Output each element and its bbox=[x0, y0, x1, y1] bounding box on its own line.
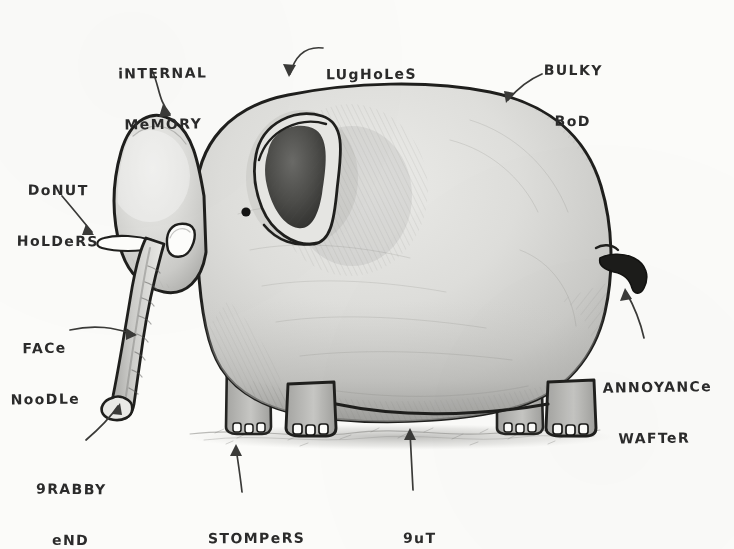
label-donut-holders: DoNUT HoLDeRS bbox=[8, 148, 109, 285]
label-annoyance-wafter-line1: ANNOYANCe bbox=[603, 378, 705, 397]
label-face-noodle: FACe NooDLe bbox=[5, 305, 85, 443]
diagram-canvas: iNTERNAL MeMORY LUgHoLeS BULKY BoD DoNUT… bbox=[0, 0, 734, 549]
label-lugholes-line1: LUgHoLeS bbox=[326, 66, 426, 84]
label-gut: 9uT bbox=[403, 496, 448, 549]
elephant-ear bbox=[246, 110, 358, 246]
label-annoyance-wafter: ANNOYANCe WAFTeR bbox=[602, 344, 706, 482]
label-grabby-end: 9RABBY eND bbox=[27, 446, 115, 549]
label-lugholes: LUgHoLeS bbox=[326, 32, 427, 118]
label-face-noodle-line1: FACe bbox=[6, 340, 84, 358]
label-internal-memory: iNTERNAL MeMORY bbox=[107, 30, 219, 168]
label-bulky-bod-line2: BoD bbox=[533, 113, 613, 131]
arrow-gut bbox=[404, 428, 416, 490]
label-stompers-line1: STOMPeRS bbox=[208, 530, 300, 548]
label-bulky-bod-line1: BULKY bbox=[533, 62, 613, 80]
arrow-annoyance-wafter bbox=[620, 288, 644, 338]
label-gut-line1: 9uT bbox=[403, 530, 447, 547]
label-face-noodle-line2: NooDLe bbox=[6, 391, 84, 409]
label-donut-holders-line2: HoLDeRS bbox=[8, 233, 108, 251]
label-annoyance-wafter-line2: WAFTeR bbox=[603, 430, 705, 449]
label-internal-memory-line1: iNTERNAL bbox=[108, 64, 218, 83]
label-grabby-end-line1: 9RABBY bbox=[28, 481, 114, 499]
label-bulky-bod: BULKY BoD bbox=[532, 28, 614, 166]
label-donut-holders-line1: DoNUT bbox=[8, 182, 108, 200]
arrow-lugholes bbox=[283, 48, 323, 77]
label-grabby-end-line2: eND bbox=[28, 532, 114, 549]
elephant-eye bbox=[241, 207, 250, 216]
label-internal-memory-line2: MeMORY bbox=[108, 116, 218, 135]
label-stompers: STOMPeRS bbox=[208, 496, 301, 549]
arrow-stompers bbox=[230, 444, 242, 492]
